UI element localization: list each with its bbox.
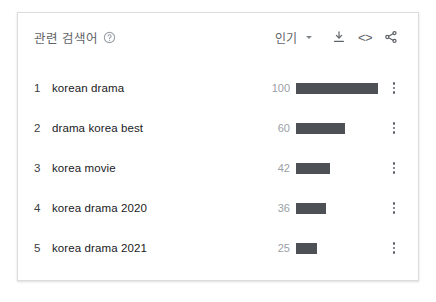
row-value: 100 <box>266 82 290 94</box>
header-actions: 인기 <> <box>275 24 404 50</box>
row-bar-track <box>296 123 378 134</box>
row-bar <box>296 243 317 254</box>
row-bar <box>296 163 330 174</box>
page-root: 관련 검색어 인기 <box>0 0 436 302</box>
row-bar-track <box>296 163 378 174</box>
more-vertical-icon[interactable] <box>382 76 406 100</box>
related-queries-list: 1 korean drama 100 2 drama korea best 60 <box>18 68 418 268</box>
row-value: 25 <box>266 242 290 254</box>
related-queries-card: 관련 검색어 인기 <box>17 12 419 281</box>
table-row[interactable]: 5 korea drama 2021 25 <box>18 228 418 268</box>
table-row[interactable]: 3 korea movie 42 <box>18 148 418 188</box>
row-bar-track <box>296 243 378 254</box>
row-value: 42 <box>266 162 290 174</box>
row-rank: 3 <box>34 162 52 174</box>
row-value: 60 <box>266 122 290 134</box>
row-bar-track <box>296 83 378 94</box>
sort-dropdown-label: 인기 <box>275 29 297 46</box>
row-term[interactable]: korea drama 2021 <box>52 242 266 254</box>
more-vertical-icon[interactable] <box>382 236 406 260</box>
card-title-group: 관련 검색어 <box>34 28 116 47</box>
row-rank: 4 <box>34 202 52 214</box>
row-rank: 5 <box>34 242 52 254</box>
row-bar <box>296 203 326 214</box>
share-icon[interactable] <box>378 24 404 50</box>
sort-dropdown[interactable]: 인기 <box>275 29 312 46</box>
row-rank: 2 <box>34 122 52 134</box>
table-row[interactable]: 4 korea drama 2020 36 <box>18 188 418 228</box>
chevron-down-icon <box>306 36 312 39</box>
embed-code-glyph: <> <box>358 31 372 44</box>
row-bar <box>296 83 378 94</box>
more-vertical-icon[interactable] <box>382 196 406 220</box>
embed-code-icon[interactable]: <> <box>352 24 378 50</box>
row-term[interactable]: korea drama 2020 <box>52 202 266 214</box>
row-term[interactable]: korean drama <box>52 82 266 94</box>
row-bar-track <box>296 203 378 214</box>
row-bar <box>296 123 345 134</box>
page-title: 관련 검색어 <box>34 28 98 47</box>
help-circle-icon[interactable] <box>103 31 116 44</box>
table-row[interactable]: 1 korean drama 100 <box>18 68 418 108</box>
download-icon[interactable] <box>326 24 352 50</box>
row-value: 36 <box>266 202 290 214</box>
table-row[interactable]: 2 drama korea best 60 <box>18 108 418 148</box>
row-term[interactable]: korea movie <box>52 162 266 174</box>
row-term[interactable]: drama korea best <box>52 122 266 134</box>
more-vertical-icon[interactable] <box>382 156 406 180</box>
more-vertical-icon[interactable] <box>382 116 406 140</box>
card-header: 관련 검색어 인기 <box>18 13 418 61</box>
row-rank: 1 <box>34 82 52 94</box>
